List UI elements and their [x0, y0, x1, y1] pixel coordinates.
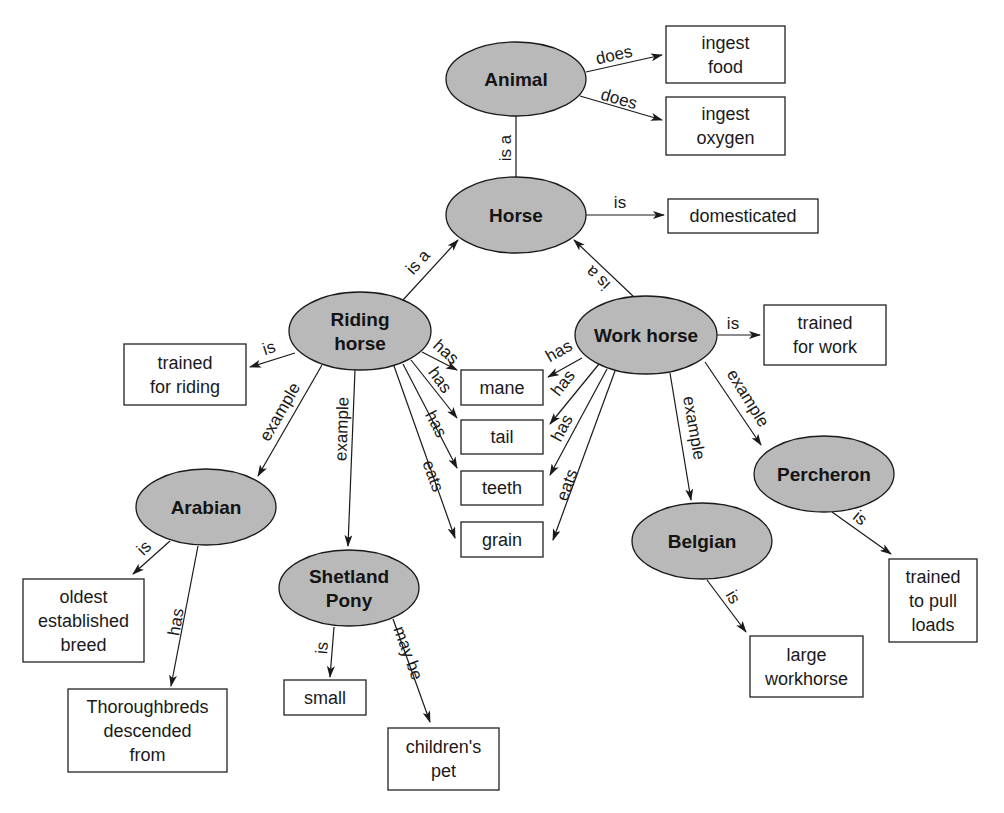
box-label: breed: [60, 635, 106, 655]
node-label: horse: [334, 333, 386, 354]
node-label: Work horse: [594, 325, 698, 346]
box-label: pet: [431, 761, 456, 781]
edge-label: example: [723, 366, 773, 431]
box-label: large: [786, 645, 826, 665]
box-large-workhorse: largeworkhorse: [750, 636, 863, 697]
edge-label: may be: [390, 624, 427, 683]
box-teeth: teeth: [461, 471, 543, 505]
edge-label: is a: [496, 134, 515, 161]
edge-label: eats: [419, 458, 448, 495]
box-trained-for-work: trainedfor work: [764, 305, 886, 365]
box-label: oldest: [59, 587, 107, 607]
box-trained-for-riding: trainedfor riding: [124, 344, 246, 405]
box-thoroughbreds-descended-from: Thoroughbredsdescendedfrom: [68, 689, 227, 772]
node-shetland-pony: ShetlandPony: [279, 550, 419, 626]
node-label: Shetland: [309, 566, 389, 587]
box-childrens-pet: children'spet: [388, 728, 499, 790]
edge-label: has: [542, 336, 575, 366]
box-label: trained: [797, 313, 852, 333]
node-belgian: Belgian: [632, 503, 772, 579]
box-label: established: [38, 611, 129, 631]
edge-label: is: [727, 314, 739, 333]
edge-label: example: [331, 397, 352, 462]
node-percheron: Percheron: [754, 436, 894, 512]
edge-label: eats: [553, 467, 582, 504]
edge-label: has: [424, 363, 455, 396]
node-label: Percheron: [777, 464, 871, 485]
edge-label: has: [164, 607, 187, 637]
box-label: ingest: [701, 104, 749, 124]
node-label: Riding: [330, 309, 389, 330]
box-label: trained: [157, 353, 212, 373]
box-label: domesticated: [689, 206, 796, 226]
node-label: Arabian: [171, 497, 242, 518]
node-animal: Animal: [446, 42, 586, 116]
box-label: trained: [905, 567, 960, 587]
edge-label: is a: [581, 262, 614, 294]
box-label: from: [130, 745, 166, 765]
edge-label: example: [256, 379, 305, 444]
edge-label: has: [429, 336, 462, 368]
edge-label: has: [421, 407, 451, 440]
box-ingest-food: ingestfood: [666, 26, 785, 83]
box-small: small: [284, 680, 366, 715]
box-trained-to-pull-loads: trainedto pullloads: [889, 559, 977, 642]
box-label: tail: [490, 427, 513, 447]
node-riding-horse: Ridinghorse: [289, 292, 431, 370]
box-label: small: [304, 688, 346, 708]
box-label: Thoroughbreds: [86, 697, 208, 717]
node-ellipse: [279, 550, 419, 626]
box-label: loads: [911, 615, 954, 635]
box-grain: grain: [461, 522, 543, 557]
edge-label: is: [260, 337, 278, 359]
box-label: grain: [482, 530, 522, 550]
edge-label: does: [594, 42, 634, 69]
box-label: workhorse: [764, 669, 848, 689]
edge-label: is a: [402, 245, 434, 278]
node-label: Animal: [484, 69, 547, 90]
edge-label: is: [312, 641, 332, 655]
box-label: teeth: [482, 478, 522, 498]
node-horse: Horse: [446, 177, 586, 253]
edge-label: does: [599, 85, 640, 113]
node-work-horse: Work horse: [575, 296, 717, 374]
node-label: Belgian: [668, 531, 737, 552]
node-arabian: Arabian: [136, 469, 276, 545]
box-label: oxygen: [696, 128, 754, 148]
box-label: ingest: [701, 33, 749, 53]
box-label: to pull: [909, 591, 957, 611]
horse-concept-map: AnimalHorseRidinghorseWork horseArabianS…: [0, 0, 1004, 813]
box-label: children's: [406, 737, 481, 757]
box-oldest-established-breed: oldestestablishedbreed: [23, 579, 144, 662]
node-ellipse: [289, 292, 431, 370]
edge-label: has: [547, 411, 577, 444]
box-label: for work: [793, 337, 858, 357]
box-label: food: [708, 57, 743, 77]
box-ingest-oxygen: ingestoxygen: [666, 97, 785, 155]
box-mane: mane: [461, 370, 543, 405]
box-tail: tail: [461, 420, 543, 454]
edge-label: is: [614, 193, 626, 212]
box-domesticated: domesticated: [668, 199, 818, 233]
node-label: Pony: [326, 590, 373, 611]
edge-label: is: [133, 537, 155, 559]
box-label: mane: [479, 378, 524, 398]
box-label: descended: [103, 721, 191, 741]
node-label: Horse: [489, 205, 543, 226]
edge-belgian-to-large-workhorse: [707, 580, 746, 632]
box-label: for riding: [150, 377, 220, 397]
